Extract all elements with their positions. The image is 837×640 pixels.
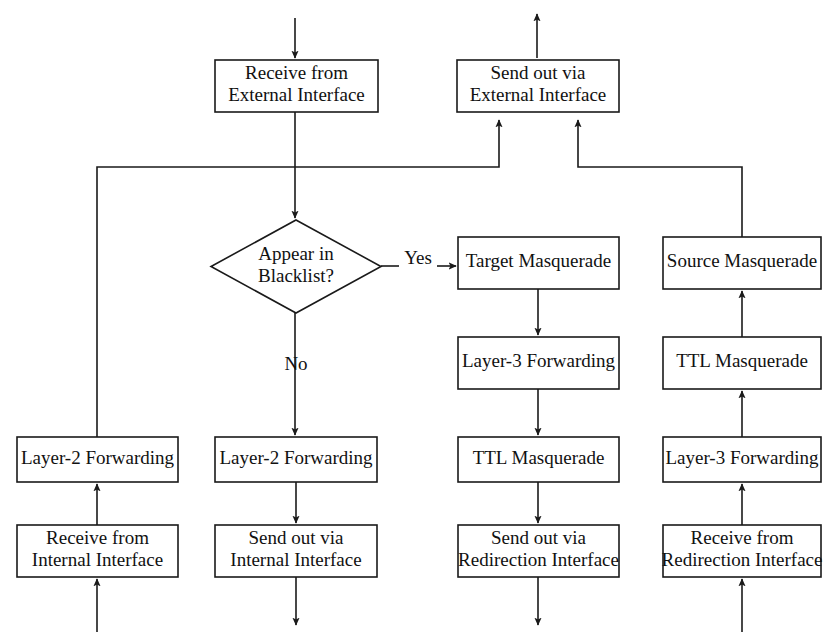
node-receive-internal[interactable]: Receive fromInternal Interface bbox=[17, 525, 178, 577]
label-yes: Yes bbox=[404, 247, 432, 268]
edge-source-to-external bbox=[578, 120, 742, 237]
node-label-receive-redirection: Redirection Interface bbox=[662, 549, 823, 570]
node-label-source-masquerade: Source Masquerade bbox=[667, 250, 817, 271]
node-ttl-masquerade-col4[interactable]: TTL Masquerade bbox=[663, 337, 821, 389]
flowchart-svg: Receive fromExternal InterfaceSend out v… bbox=[0, 0, 837, 640]
node-appear-in-blacklist[interactable]: Appear inBlacklist? bbox=[211, 220, 381, 313]
node-label-target-masquerade: Target Masquerade bbox=[466, 250, 612, 271]
node-label-receive-redirection: Receive from bbox=[691, 527, 794, 548]
node-label-layer2-forwarding-col2: Layer-2 Forwarding bbox=[219, 447, 373, 468]
node-ttl-masquerade-col3[interactable]: TTL Masquerade bbox=[458, 437, 619, 482]
node-label-send-external: External Interface bbox=[470, 84, 607, 105]
edges-layer bbox=[97, 14, 742, 632]
node-label-ttl-masquerade-col3: TTL Masquerade bbox=[473, 447, 605, 468]
node-label-send-redirection: Send out via bbox=[491, 527, 587, 548]
node-source-masquerade[interactable]: Source Masquerade bbox=[663, 237, 821, 289]
node-label-layer3-forwarding-col3: Layer-3 Forwarding bbox=[462, 350, 616, 371]
node-label-send-internal: Internal Interface bbox=[230, 549, 361, 570]
node-label-layer3-forwarding-col4: Layer-3 Forwarding bbox=[665, 447, 819, 468]
node-label-layer2-forwarding-col1: Layer-2 Forwarding bbox=[21, 447, 175, 468]
node-send-internal[interactable]: Send out viaInternal Interface bbox=[215, 525, 377, 577]
node-send-external[interactable]: Send out viaExternal Interface bbox=[457, 60, 619, 112]
node-layer3-forwarding-col3[interactable]: Layer-3 Forwarding bbox=[458, 337, 619, 389]
node-layer2-forwarding-col1[interactable]: Layer-2 Forwarding bbox=[17, 437, 178, 482]
node-layer2-forwarding-col2[interactable]: Layer-2 Forwarding bbox=[215, 437, 377, 482]
node-label-send-internal: Send out via bbox=[249, 527, 345, 548]
node-label-ttl-masquerade-col4: TTL Masquerade bbox=[676, 350, 808, 371]
node-label-send-external: Send out via bbox=[491, 62, 587, 83]
node-label-receive-external: Receive from bbox=[245, 62, 348, 83]
node-label-send-redirection: Redirection Interface bbox=[458, 549, 619, 570]
flowchart-canvas: Receive fromExternal InterfaceSend out v… bbox=[0, 0, 837, 640]
node-target-masquerade[interactable]: Target Masquerade bbox=[458, 237, 619, 289]
node-label-appear-in-blacklist: Appear in bbox=[258, 243, 334, 264]
node-label-receive-internal: Internal Interface bbox=[32, 549, 163, 570]
node-layer3-forwarding-col4[interactable]: Layer-3 Forwarding bbox=[663, 437, 821, 482]
node-label-receive-internal: Receive from bbox=[46, 527, 149, 548]
nodes-layer: Receive fromExternal InterfaceSend out v… bbox=[17, 60, 822, 577]
node-label-appear-in-blacklist: Blacklist? bbox=[258, 265, 334, 286]
node-label-receive-external: External Interface bbox=[228, 84, 365, 105]
node-send-redirection[interactable]: Send out viaRedirection Interface bbox=[458, 525, 619, 577]
node-receive-external[interactable]: Receive fromExternal Interface bbox=[215, 60, 378, 112]
label-no: No bbox=[284, 353, 307, 374]
node-receive-redirection[interactable]: Receive fromRedirection Interface bbox=[662, 525, 823, 577]
